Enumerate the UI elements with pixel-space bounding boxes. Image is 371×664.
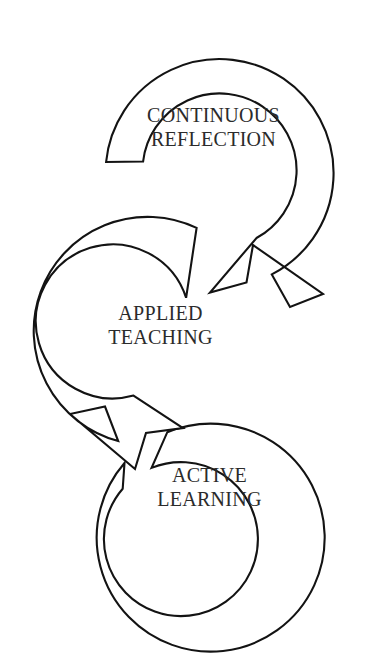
stage-label-applied-teaching: APPLIED TEACHING — [0, 302, 371, 349]
stage-label-line-1: ACTIVE — [48, 464, 371, 488]
ring-continuous-reflection — [106, 59, 333, 307]
stage-label-line-2: LEARNING — [48, 488, 371, 512]
cycle-diagram: CONTINUOUS REFLECTION APPLIED TEACHING A… — [0, 0, 371, 664]
stage-label-line-2: REFLECTION — [56, 128, 371, 152]
stage-label-line-1: CONTINUOUS — [56, 104, 371, 128]
stage-label-active-learning: ACTIVE LEARNING — [0, 464, 371, 511]
stage-label-line-1: APPLIED — [0, 302, 321, 326]
stage-label-continuous-reflection: CONTINUOUS REFLECTION — [0, 104, 371, 151]
stage-label-line-2: TEACHING — [0, 326, 321, 350]
